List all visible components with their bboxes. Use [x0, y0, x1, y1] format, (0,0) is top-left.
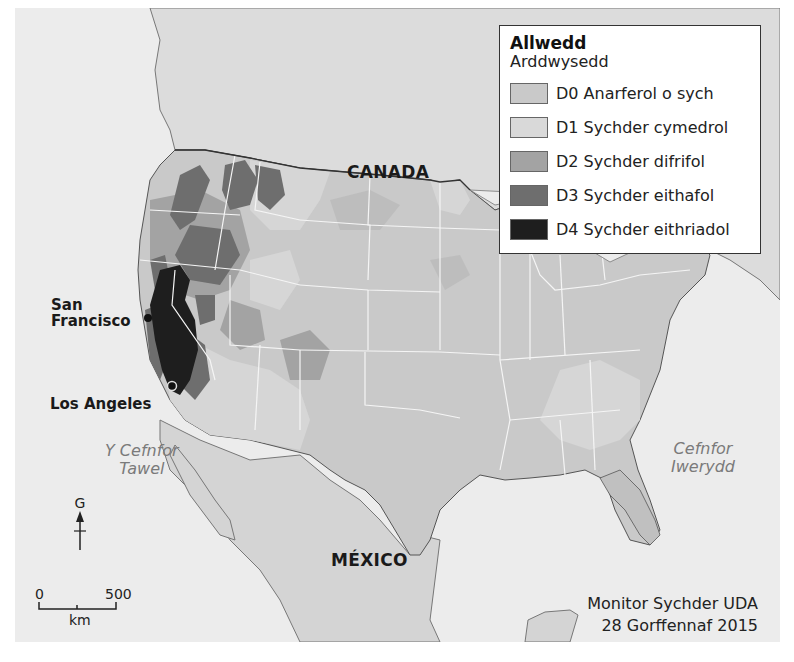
- scale-bar: 0 500 km: [35, 586, 145, 636]
- legend-label-d4: D4 Sychder eithriadol: [556, 220, 730, 239]
- atlantic-line1: Cefnfor: [671, 440, 735, 458]
- label-mexico: MÉXICO: [331, 550, 408, 570]
- label-san-francisco: San Francisco: [51, 297, 131, 329]
- legend-swatch-d2: [510, 151, 548, 172]
- legend-label-d3: D3 Sychder eithafol: [556, 186, 714, 205]
- legend-item-d1: D1 Sychder cymedrol: [510, 110, 750, 144]
- legend-swatch-d1: [510, 117, 548, 138]
- north-label: G: [70, 496, 90, 510]
- pacific-line1: Y Cefnfor: [105, 442, 179, 460]
- source-line2: 28 Gorffennaf 2015: [587, 615, 758, 637]
- san-francisco-line2: Francisco: [51, 313, 131, 329]
- legend-label-d0: D0 Anarferol o sych: [556, 84, 714, 103]
- label-los-angeles: Los Angeles: [50, 396, 151, 412]
- san-francisco-dot: [144, 314, 152, 322]
- legend-item-d0: D0 Anarferol o sych: [510, 76, 750, 110]
- label-canada: CANADA: [347, 162, 429, 182]
- legend-label-d1: D1 Sychder cymedrol: [556, 118, 728, 137]
- legend-item-d3: D3 Sychder eithafol: [510, 178, 750, 212]
- north-arrow-icon: [70, 510, 90, 552]
- legend-label-d2: D2 Sychder difrifol: [556, 152, 705, 171]
- legend-swatch-d3: [510, 185, 548, 206]
- legend-swatch-d4: [510, 219, 548, 240]
- legend-item-d4: D4 Sychder eithriadol: [510, 212, 750, 246]
- label-pacific-ocean: Y Cefnfor Tawel: [105, 442, 179, 478]
- scale-unit: km: [69, 612, 91, 628]
- scale-line-icon: [35, 600, 145, 612]
- north-arrow: G: [70, 496, 90, 556]
- legend-item-d2: D2 Sychder difrifol: [510, 144, 750, 178]
- legend-subtitle: Arddwysedd: [510, 52, 750, 72]
- pacific-line2: Tawel: [105, 460, 179, 478]
- map-source: Monitor Sychder UDA 28 Gorffennaf 2015: [587, 593, 758, 637]
- legend-title: Allwedd: [510, 34, 750, 52]
- atlantic-line2: Iwerydd: [671, 458, 735, 476]
- label-atlantic-ocean: Cefnfor Iwerydd: [671, 440, 735, 476]
- source-line1: Monitor Sychder UDA: [587, 593, 758, 615]
- los-angeles-dot: [168, 382, 177, 391]
- legend-swatch-d0: [510, 83, 548, 104]
- san-francisco-line1: San: [51, 297, 131, 313]
- cuba-land: [525, 610, 578, 642]
- legend: Allwedd Arddwysedd D0 Anarferol o sych D…: [499, 25, 761, 254]
